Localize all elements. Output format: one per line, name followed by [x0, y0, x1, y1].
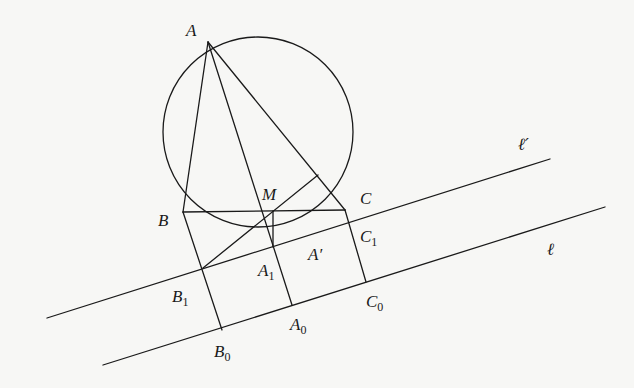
label-C1: C1 [360, 228, 377, 248]
label-l-prime: ℓ′ [518, 136, 529, 153]
label-l: ℓ [547, 241, 554, 258]
diagram-canvas [0, 0, 634, 388]
segment-BC [183, 210, 345, 212]
label-C0: C0 [366, 293, 383, 313]
label-A1: A1 [258, 262, 274, 282]
segment-AC [208, 42, 345, 210]
label-M: M [262, 186, 276, 203]
segment-A-A0 [208, 42, 292, 305]
label-C: C [360, 190, 371, 207]
label-B: B [158, 212, 168, 229]
line-l [103, 207, 605, 365]
label-A: A [186, 22, 196, 39]
geometry-diagram: A B C M A′ A1 B1 C1 A0 B0 C0 ℓ′ ℓ [0, 0, 634, 388]
label-B1: B1 [172, 288, 188, 308]
segment-B1-M-to-AC [203, 175, 318, 268]
segment-AB [183, 42, 208, 212]
label-A0: A0 [290, 316, 306, 336]
label-B0: B0 [214, 343, 230, 363]
label-A-prime: A′ [308, 246, 322, 263]
line-l-prime [47, 159, 550, 318]
segment-B-B0 [183, 212, 222, 330]
